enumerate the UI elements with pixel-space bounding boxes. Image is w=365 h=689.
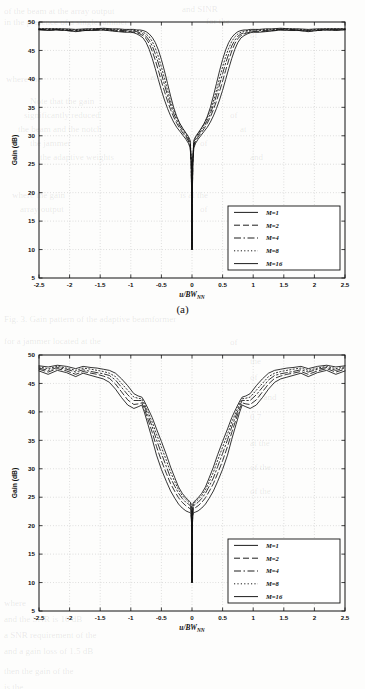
gain-pattern-chart-a: -2.5-2-1.5-1-0.500.511.522.5510152025303…	[0, 0, 365, 300]
legend-label[interactable]: M=16	[265, 260, 283, 267]
x-tick-label: 1	[251, 614, 255, 621]
x-tick-label: -1	[128, 614, 134, 621]
y-tick-label: 20	[28, 522, 35, 529]
y-tick-label: 15	[28, 550, 35, 557]
legend-label[interactable]: M=8	[265, 580, 280, 587]
y-tick-label: 25	[28, 493, 35, 500]
y-tick-label: 30	[28, 465, 35, 472]
y-tick-label: 35	[28, 437, 35, 444]
x-tick-label: 2.5	[341, 614, 350, 621]
legend-label[interactable]: M=4	[265, 234, 280, 241]
y-axis-label: Gain (dB)	[11, 135, 19, 166]
legend-label[interactable]: M=1	[265, 542, 279, 549]
x-tick-label: -2.5	[34, 281, 45, 288]
x-axis-label: u/BWNN	[179, 623, 206, 633]
legend-label[interactable]: M=2	[265, 555, 280, 562]
x-tick-label: 0	[190, 614, 194, 621]
y-tick-label: 15	[28, 217, 35, 224]
legend-label[interactable]: M=16	[265, 593, 283, 600]
x-label-subscript: NN	[196, 294, 206, 300]
y-axis-label: Gain (dB)	[11, 468, 19, 499]
x-tick-label: -0.5	[156, 614, 167, 621]
y-tick-label: 40	[28, 408, 35, 415]
x-tick-label: -0.5	[156, 281, 167, 288]
legend-label[interactable]: M=4	[265, 567, 280, 574]
x-tick-label: 0.5	[218, 281, 227, 288]
x-label-bw: BW	[184, 623, 197, 632]
x-tick-label: 0.5	[218, 614, 227, 621]
x-tick-label: 2	[313, 281, 317, 288]
subcaption-a: (a)	[0, 303, 365, 315]
x-tick-label: -1	[128, 281, 134, 288]
y-tick-label: 5	[32, 274, 36, 281]
x-axis-label: u/BWNN	[179, 290, 206, 300]
y-tick-label: 20	[28, 189, 35, 196]
plot-area-a: -2.5-2-1.5-1-0.500.511.522.5510152025303…	[0, 0, 365, 300]
x-label-subscript: NN	[196, 627, 206, 633]
legend[interactable]: M=1M=2M=4M=8M=16	[228, 206, 340, 270]
x-tick-label: 0	[190, 281, 194, 288]
y-tick-label: 40	[28, 75, 35, 82]
y-tick-label: 10	[28, 579, 35, 586]
y-tick-label: 35	[28, 104, 35, 111]
y-tick-label: 45	[28, 47, 35, 54]
figure-panel-a: -2.5-2-1.5-1-0.500.511.522.5510152025303…	[0, 0, 365, 330]
x-tick-label: 1.5	[279, 281, 288, 288]
y-tick-label: 50	[28, 18, 35, 25]
y-tick-label: 10	[28, 246, 35, 253]
svg-text:u/BWNN: u/BWNN	[179, 290, 206, 300]
y-tick-label: 45	[28, 380, 35, 387]
y-tick-label: 5	[32, 607, 36, 614]
x-tick-label: 1	[251, 281, 255, 288]
plot-area-b: -2.5-2-1.5-1-0.500.511.522.5510152025303…	[0, 330, 365, 650]
legend-label[interactable]: M=8	[265, 247, 280, 254]
legend-label[interactable]: M=2	[265, 222, 280, 229]
x-tick-label: -2.5	[34, 614, 45, 621]
legend-label[interactable]: M=1	[265, 209, 279, 216]
x-tick-label: 1.5	[279, 614, 288, 621]
x-tick-label: -2	[67, 614, 73, 621]
x-tick-label: 2.5	[341, 281, 350, 288]
x-tick-label: -1.5	[95, 614, 106, 621]
y-tick-label: 30	[28, 132, 35, 139]
x-tick-label: 2	[313, 614, 317, 621]
x-label-bw: BW	[184, 290, 197, 299]
y-tick-label: 25	[28, 160, 35, 167]
x-tick-label: -1.5	[95, 281, 106, 288]
figure-panel-b: -2.5-2-1.5-1-0.500.511.522.5510152025303…	[0, 330, 365, 689]
svg-text:u/BWNN: u/BWNN	[179, 623, 206, 633]
x-tick-label: -2	[67, 281, 73, 288]
gain-pattern-chart-b: -2.5-2-1.5-1-0.500.511.522.5510152025303…	[0, 330, 365, 650]
page-background: of the beam at the array outputand SINRi…	[0, 0, 365, 689]
legend[interactable]: M=1M=2M=4M=8M=16	[228, 539, 340, 603]
y-tick-label: 50	[28, 351, 35, 358]
